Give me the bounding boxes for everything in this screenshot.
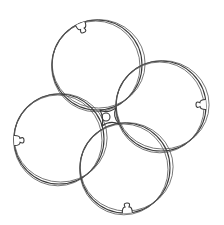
- discs-group: [14, 20, 210, 215]
- disc-notch-icon: [76, 21, 89, 34]
- disc-notch-icon: [196, 99, 206, 109]
- hub-hole-icon: [102, 113, 110, 121]
- disc-top: [52, 20, 146, 112]
- disc-notch-icon: [122, 203, 133, 214]
- four-disc-diagram: [0, 0, 224, 225]
- disc-notch-icon: [14, 135, 24, 145]
